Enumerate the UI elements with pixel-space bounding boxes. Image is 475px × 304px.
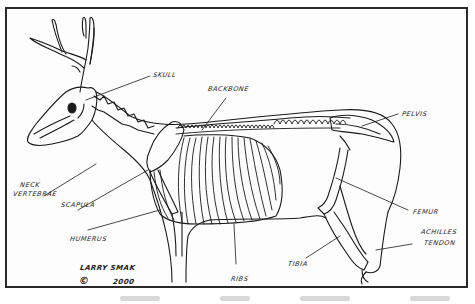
cropped-caption-strip bbox=[0, 292, 475, 304]
pelvis bbox=[330, 115, 394, 142]
body-outline bbox=[96, 92, 401, 212]
tibia bbox=[324, 212, 368, 270]
label-neck-vertebrae-line2: VERTEBRAE bbox=[12, 190, 57, 198]
scapula bbox=[147, 121, 184, 172]
label-achilles-tendon-line1: ACHILLES bbox=[420, 228, 457, 236]
cropped-text-fragment bbox=[300, 296, 350, 301]
label-achilles-tendon-line2: TENDON bbox=[423, 239, 456, 247]
skull-outline bbox=[27, 87, 96, 145]
cropped-text-fragment bbox=[220, 296, 250, 301]
label-femur: FEMUR bbox=[412, 208, 439, 216]
label-neck-vertebrae-line1: NECK bbox=[19, 181, 40, 189]
antler-icon bbox=[30, 17, 94, 92]
label-scapula: SCAPULA bbox=[60, 201, 95, 209]
cropped-text-fragment bbox=[410, 296, 450, 301]
label-humerus: HUMERUS bbox=[69, 235, 107, 243]
copyright-icon: © bbox=[78, 275, 90, 286]
label-ribs: RIBS bbox=[230, 275, 249, 283]
deer-skeleton-drawing bbox=[0, 0, 475, 304]
artist-signature: LARRY SMAK bbox=[79, 264, 135, 272]
cropped-text-fragment bbox=[120, 296, 160, 301]
signature-year: 2000 bbox=[112, 278, 135, 286]
label-backbone: BACKBONE bbox=[207, 85, 249, 93]
label-tibia: TIBIA bbox=[287, 260, 308, 268]
label-skull: SKULL bbox=[152, 71, 176, 79]
label-pelvis: PELVIS bbox=[401, 110, 427, 118]
